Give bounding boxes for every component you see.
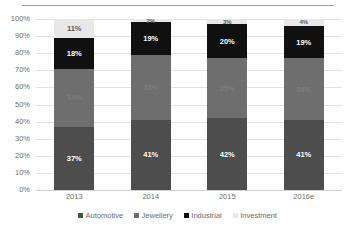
bar-segment-jewellery[interactable]: 35%	[207, 58, 247, 118]
y-axis-tick-label: 10%	[15, 169, 30, 177]
bar-column[interactable]: 37%34%18%11%	[54, 19, 94, 190]
legend-color-swatch	[184, 213, 189, 218]
bar-segment-value-label: 20%	[220, 37, 235, 46]
bar-segment-automotive[interactable]: 41%	[284, 120, 324, 190]
legend-label: Industrial	[191, 211, 221, 220]
y-axis-tick-label: 40%	[15, 118, 30, 126]
bar-segment-value-label: 4%	[299, 19, 308, 25]
bar-segment-value-label: 35%	[220, 84, 235, 93]
y-axis-labels: 100%90%80%70%60%50%40%30%20%10%0%	[0, 19, 33, 190]
bar-segment-investment[interactable]: 11%	[54, 19, 94, 38]
x-axis-tick-label: 2014	[113, 192, 190, 201]
x-axis-tick-label: 2013	[36, 192, 113, 201]
bar-segment-value-label: 3%	[223, 19, 232, 25]
legend-item[interactable]: Industrial	[184, 211, 222, 220]
stacked-bar-chart: 100%90%80%70%60%50%40%30%20%10%0% 37%34%…	[0, 0, 355, 231]
bar-segment-value-label: 11%	[67, 24, 82, 33]
bar-column[interactable]: 42%35%20%3%	[207, 19, 247, 190]
bar-segment-automotive[interactable]: 41%	[131, 120, 171, 190]
x-axis-tick-label: 2016e	[266, 192, 343, 201]
bar-segment-jewellery[interactable]: 38%	[131, 55, 171, 120]
y-axis-tick-label: 20%	[15, 152, 30, 160]
bar-segment-industrial[interactable]: 20%	[207, 24, 247, 58]
bar-segment-value-label: 36%	[296, 85, 311, 94]
bar-segment-automotive[interactable]: 37%	[54, 127, 94, 190]
title-divider	[22, 5, 334, 6]
bar-segment-value-label: 37%	[67, 154, 82, 163]
bar-segment-industrial[interactable]: 19%	[131, 22, 171, 54]
bar-segment-investment[interactable]: 3%	[207, 19, 247, 24]
y-axis-tick-label: 30%	[15, 135, 30, 143]
bar-segment-industrial[interactable]: 18%	[54, 38, 94, 69]
bar-column[interactable]: 41%38%19%2%	[131, 19, 171, 190]
chart-legend: AutomotiveJewelleryIndustrialInvestment	[0, 211, 355, 220]
bar-segment-jewellery[interactable]: 34%	[54, 69, 94, 127]
chart-title	[22, 0, 334, 4]
legend-color-swatch	[233, 213, 238, 218]
bar-series-group: 37%34%18%11%41%38%19%2%42%35%20%3%41%36%…	[36, 19, 342, 190]
bar-column[interactable]: 41%36%19%4%	[284, 19, 324, 190]
x-axis-tick-label: 2015	[189, 192, 266, 201]
bar-segment-investment[interactable]: 4%	[284, 19, 324, 26]
legend-color-swatch	[78, 213, 83, 218]
bar-segment-investment[interactable]: 2%	[131, 19, 171, 22]
legend-label: Automotive	[86, 211, 124, 220]
y-axis-tick-label: 60%	[15, 83, 30, 91]
legend-label: Jewellery	[142, 211, 173, 220]
y-axis-tick-label: 80%	[15, 49, 30, 57]
bar-segment-value-label: 41%	[143, 150, 158, 159]
plot-area: 37%34%18%11%41%38%19%2%42%35%20%3%41%36%…	[36, 19, 342, 190]
bar-segment-value-label: 42%	[220, 150, 235, 159]
bar-segment-value-label: 34%	[67, 93, 82, 102]
y-axis-tick-label: 0%	[19, 186, 30, 194]
legend-label: Investment	[240, 211, 277, 220]
x-axis-labels: 2013201420152016e	[36, 192, 342, 206]
bar-segment-value-label: 19%	[296, 38, 311, 47]
legend-item[interactable]: Jewellery	[134, 211, 173, 220]
bar-segment-automotive[interactable]: 42%	[207, 118, 247, 190]
y-axis-tick-label: 50%	[15, 101, 30, 109]
y-axis-tick-label: 90%	[15, 32, 30, 40]
y-axis-tick-label: 70%	[15, 66, 30, 74]
bar-segment-value-label: 41%	[296, 150, 311, 159]
bar-segment-value-label: 19%	[143, 34, 158, 43]
gridline	[36, 190, 342, 191]
legend-color-swatch	[134, 213, 139, 218]
bar-segment-jewellery[interactable]: 36%	[284, 58, 324, 120]
bar-segment-value-label: 38%	[143, 83, 158, 92]
legend-item[interactable]: Investment	[233, 211, 277, 220]
legend-item[interactable]: Automotive	[78, 211, 123, 220]
bar-segment-industrial[interactable]: 19%	[284, 26, 324, 58]
bar-segment-value-label: 18%	[67, 49, 82, 58]
y-axis-tick-label: 100%	[11, 15, 30, 23]
